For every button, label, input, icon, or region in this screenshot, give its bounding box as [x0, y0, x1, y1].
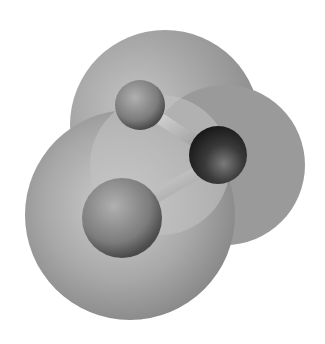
- central-atom: [189, 126, 247, 184]
- molecule-illustration: [0, 0, 325, 344]
- lower-terminal-atom: [82, 178, 162, 258]
- electron-density-surface: [25, 30, 305, 320]
- upper-terminal-atom: [115, 80, 165, 130]
